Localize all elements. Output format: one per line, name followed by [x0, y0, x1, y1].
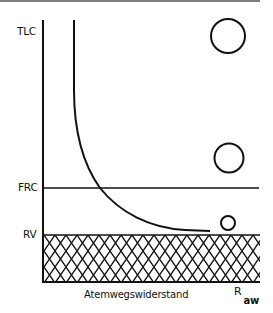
x-axis-label: Atemwegswiderstand [84, 289, 188, 300]
raw-symbol-main: R [234, 285, 241, 298]
circle-large [211, 19, 245, 53]
circle-small [221, 216, 235, 230]
tlc-label: TLC [17, 25, 36, 37]
raw-symbol-subscript: aw [243, 295, 259, 306]
hatched-region [44, 235, 260, 282]
diagram-canvas [0, 0, 273, 313]
frc-label: FRC [18, 181, 38, 193]
rv-label: RV [23, 228, 37, 240]
raw-symbol: Raw [234, 285, 257, 298]
circle-medium [215, 144, 244, 173]
resistance-curve [74, 20, 210, 231]
